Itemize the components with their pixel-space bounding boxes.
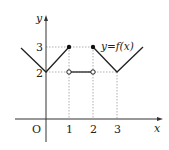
endpoint-markers — [67, 45, 95, 74]
filled-dot-2-3 — [91, 45, 95, 49]
x-axis-label: x — [154, 122, 161, 135]
x-tick-1: 1 — [66, 123, 73, 136]
x-tick-3: 3 — [114, 123, 121, 136]
curve-left-segment — [21, 47, 69, 72]
x-axis-arrow-icon — [157, 117, 163, 121]
filled-dot-1-3 — [67, 45, 71, 49]
y-axis-label: y — [35, 12, 43, 25]
x-tick-2: 2 — [90, 123, 97, 136]
open-dot-1-2 — [67, 70, 71, 74]
guide-lines — [46, 47, 117, 119]
open-dot-2-2 — [91, 70, 95, 74]
y-tick-3: 3 — [36, 41, 43, 54]
y-axis-arrow-icon — [44, 15, 48, 21]
function-graph: y x O 1 2 3 3 2 y=f(x) — [0, 0, 169, 150]
function-label: y=f(x) — [100, 40, 134, 52]
origin-label: O — [32, 123, 41, 136]
y-tick-2: 2 — [36, 67, 43, 80]
